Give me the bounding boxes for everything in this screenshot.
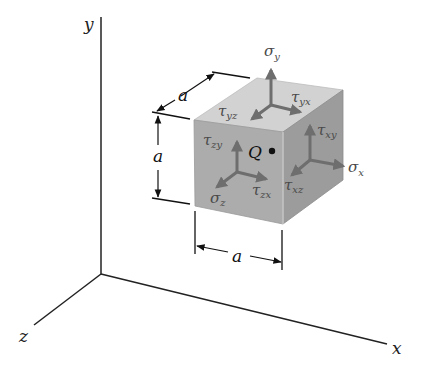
dimension-left: a bbox=[152, 116, 190, 204]
stress-element-diagram: y x z a a a bbox=[0, 0, 422, 365]
dimension-label-left: a bbox=[153, 146, 163, 166]
dimension-label-top: a bbox=[178, 85, 188, 105]
sigma-y-label: σy bbox=[264, 42, 280, 62]
point-q-label: Q bbox=[248, 142, 262, 162]
y-axis-label: y bbox=[83, 14, 94, 34]
sigma-x-label: σx bbox=[348, 158, 364, 178]
x-axis bbox=[101, 274, 387, 344]
dimension-label-bottom: a bbox=[232, 246, 242, 266]
point-q-dot bbox=[269, 148, 275, 154]
x-axis-label: x bbox=[392, 338, 402, 358]
z-axis bbox=[34, 274, 101, 325]
z-axis-label: z bbox=[18, 326, 29, 346]
